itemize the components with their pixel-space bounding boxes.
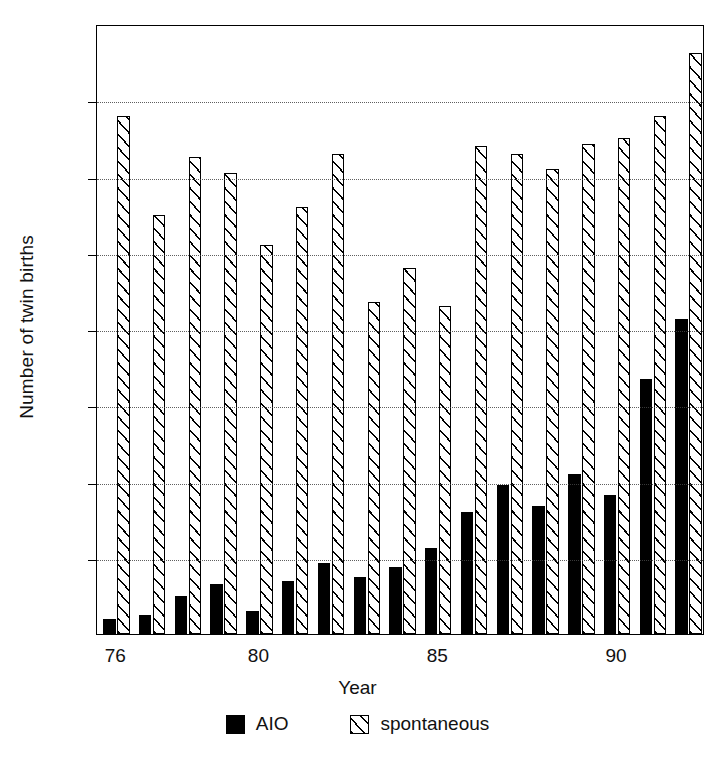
- gridline: [97, 560, 703, 561]
- y-tick-mark: [88, 407, 97, 408]
- gridline: [97, 484, 703, 485]
- bar-group: [532, 26, 558, 634]
- bar-group: [318, 26, 344, 634]
- legend-item-spontaneous: spontaneous: [350, 713, 489, 735]
- bar-group: [103, 26, 129, 634]
- x-tick-label: 85: [427, 645, 448, 667]
- legend-swatch-spontaneous-icon: [350, 715, 369, 734]
- bar-aio: [425, 548, 437, 634]
- y-tick-mark: [88, 484, 97, 485]
- bar-spontaneous: [654, 116, 666, 635]
- bar-spontaneous: [260, 245, 272, 634]
- x-tick-label: 90: [606, 645, 627, 667]
- gridline: [97, 331, 703, 332]
- x-tick-label: 80: [248, 645, 269, 667]
- bar-aio: [675, 319, 687, 634]
- bar-group: [389, 26, 415, 634]
- y-tick-mark: [88, 102, 97, 103]
- legend-label-spontaneous: spontaneous: [380, 713, 489, 735]
- bar-aio: [246, 611, 258, 634]
- bar-group: [568, 26, 594, 634]
- plot-area: [96, 25, 704, 635]
- legend-label-aio: AIO: [256, 713, 289, 735]
- bar-aio: [389, 567, 401, 634]
- gridline: [97, 255, 703, 256]
- bar-group: [210, 26, 236, 634]
- bar-spontaneous: [332, 154, 344, 634]
- y-tick-mark: [88, 560, 97, 561]
- bar-series-container: [97, 26, 703, 634]
- bar-spontaneous: [403, 268, 415, 634]
- twin-births-bar-chart: Number of twin births 020406080100120140…: [0, 0, 715, 759]
- bar-spontaneous: [296, 207, 308, 634]
- bar-group: [604, 26, 630, 634]
- y-tick-mark: [88, 179, 97, 180]
- bar-spontaneous: [689, 53, 701, 634]
- bar-spontaneous: [546, 169, 558, 634]
- bar-aio: [103, 619, 115, 634]
- bar-group: [425, 26, 451, 634]
- gridline: [97, 102, 703, 103]
- x-tick-label: 76: [105, 645, 126, 667]
- bar-aio: [210, 584, 222, 634]
- bar-spontaneous: [439, 306, 451, 634]
- bar-spontaneous: [153, 215, 165, 634]
- y-tick-mark: [88, 331, 97, 332]
- bar-group: [675, 26, 701, 634]
- bar-aio: [354, 577, 366, 634]
- bar-aio: [282, 581, 294, 634]
- bar-aio: [532, 506, 544, 634]
- y-axis-title: Number of twin births: [16, 157, 38, 497]
- bar-aio: [568, 474, 580, 634]
- y-tick-mark: [88, 255, 97, 256]
- bar-group: [175, 26, 201, 634]
- bar-spontaneous: [511, 154, 523, 634]
- bar-spontaneous: [368, 302, 380, 634]
- bar-spontaneous: [475, 146, 487, 634]
- bar-group: [246, 26, 272, 634]
- bar-aio: [175, 596, 187, 634]
- bar-group: [640, 26, 666, 634]
- bar-aio: [318, 563, 330, 634]
- bar-spontaneous: [224, 173, 236, 634]
- bar-spontaneous: [117, 116, 129, 635]
- chart-legend: AIO spontaneous: [0, 713, 715, 735]
- gridline: [97, 407, 703, 408]
- legend-item-aio: AIO: [226, 713, 289, 735]
- x-axis-title: Year: [0, 677, 715, 699]
- bar-aio: [461, 512, 473, 634]
- bar-group: [461, 26, 487, 634]
- bar-group: [497, 26, 523, 634]
- bar-spontaneous: [189, 157, 201, 634]
- bar-aio: [640, 379, 652, 634]
- legend-swatch-aio-icon: [226, 715, 245, 734]
- gridline: [97, 179, 703, 180]
- bar-group: [282, 26, 308, 634]
- bar-aio: [604, 495, 616, 634]
- bar-group: [354, 26, 380, 634]
- bar-group: [139, 26, 165, 634]
- bar-aio: [139, 615, 151, 634]
